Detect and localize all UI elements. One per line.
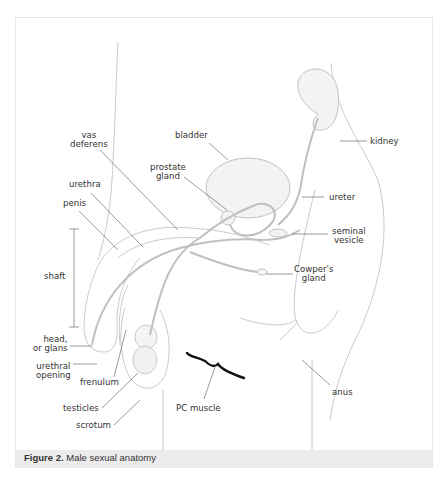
label-frenulum: frenulum	[80, 378, 119, 387]
label-text: gland	[294, 274, 333, 283]
label-testicles: testicles	[63, 404, 99, 413]
label-ureter: ureter	[329, 193, 355, 202]
label-urethra: urethra	[69, 180, 101, 189]
label-text: vesicle	[332, 236, 366, 245]
anatomy-illustration	[0, 0, 447, 502]
label-text: gland	[150, 172, 186, 181]
figure-caption: Figure 2. Male sexual anatomy	[24, 452, 156, 463]
caption-text: Male sexual anatomy	[66, 452, 156, 463]
label-shaft: shaft	[44, 272, 65, 281]
caption-number: Figure 2.	[24, 452, 64, 463]
label-text: or glans	[33, 344, 68, 353]
label-pc-muscle: PC muscle	[176, 404, 221, 413]
label-text: opening	[36, 371, 71, 380]
label-vas-deferens: vas deferens	[70, 131, 108, 149]
label-prostate-gland: prostate gland	[150, 163, 186, 181]
label-urethral-opening: urethral opening	[36, 362, 71, 380]
label-scrotum: scrotum	[76, 421, 111, 430]
label-anus: anus	[332, 388, 353, 397]
label-seminal-vesicle: seminal vesicle	[332, 227, 366, 245]
label-penis: penis	[63, 199, 86, 208]
label-kidney: kidney	[370, 137, 399, 146]
label-cowpers-gland: Cowper's gland	[294, 265, 333, 283]
label-head-or-glans: head, or glans	[33, 335, 68, 353]
label-bladder: bladder	[175, 131, 208, 140]
organs	[206, 69, 338, 275]
label-text: deferens	[70, 140, 108, 149]
pc-muscle-mark	[187, 353, 244, 378]
